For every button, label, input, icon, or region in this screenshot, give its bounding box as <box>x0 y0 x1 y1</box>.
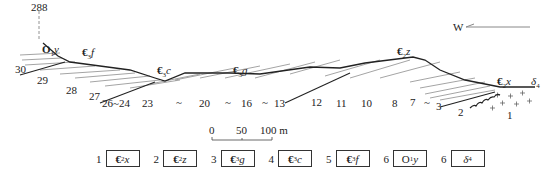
bed-label: 12 <box>311 96 322 108</box>
bed-label: 28 <box>66 84 77 96</box>
scale-label-50: 50 <box>236 124 247 136</box>
unit-label-E2z: €2z <box>397 45 410 62</box>
unit-label-delta: δ4 <box>531 75 540 92</box>
bed-label: ~ <box>424 96 430 108</box>
bed-label: 10 <box>361 97 372 109</box>
bed-label: 7 <box>410 96 416 108</box>
legend-swatch: €3f <box>336 150 370 167</box>
bed-label: 11 <box>336 97 347 109</box>
legend-swatch: O1y <box>393 150 427 167</box>
elevation-label: 288 <box>31 1 48 13</box>
unconformity-contact <box>470 94 500 108</box>
legend-swatch: €3c <box>278 150 312 167</box>
legend-item: 1 €2x <box>96 150 140 167</box>
legend-item: 6 δ4 <box>441 150 485 167</box>
bed-label: 1 <box>507 109 513 121</box>
bed-label: 16 <box>241 97 252 109</box>
scale-label-100: 100 m <box>260 124 288 136</box>
west-arrow-icon <box>466 24 530 27</box>
bed-label: ~ <box>262 96 268 108</box>
unit-label-E3g: €3g <box>233 64 248 81</box>
legend-item: 3 €3g <box>211 150 255 167</box>
legend-swatch: €2z <box>163 150 197 167</box>
granite-pattern <box>490 91 532 111</box>
scale-label-0: 0 <box>209 124 215 136</box>
unit-label-E3c: €3c <box>157 64 171 81</box>
bed-label: 23 <box>142 97 153 109</box>
bed-label: 27 <box>89 90 100 102</box>
bed-label: 30 <box>15 63 26 75</box>
legend-swatch: €2x <box>106 150 140 167</box>
bed-label: ~ <box>176 96 182 108</box>
scale-bar <box>212 137 272 140</box>
legend: 1 €2x 2 €2z 3 €3g 4 €3c 5 €3f 6 O1y 6 δ4 <box>96 150 499 167</box>
legend-item: 5 €3f <box>326 150 370 167</box>
bed-label: ~ <box>225 96 231 108</box>
bed-label: 8 <box>392 97 398 109</box>
unit-label-O1y: O1y <box>42 43 59 60</box>
unit-label-E3f: €3f <box>82 46 94 63</box>
bed-label: 29 <box>37 74 48 86</box>
legend-item: 4 €3c <box>269 150 313 167</box>
direction-label: W <box>453 21 463 33</box>
legend-item: 2 €2z <box>154 150 198 167</box>
bed-label: 3 <box>436 100 442 112</box>
legend-swatch: €3g <box>221 150 255 167</box>
legend-item: 6 O1y <box>384 150 428 167</box>
bed-label: 20 <box>199 97 210 109</box>
legend-swatch: δ4 <box>451 150 485 167</box>
bed-label: 2 <box>458 106 464 118</box>
unit-label-E2x: €2x <box>497 75 511 92</box>
bed-label: 26~24 <box>102 97 130 109</box>
bed-label: 13 <box>274 97 285 109</box>
